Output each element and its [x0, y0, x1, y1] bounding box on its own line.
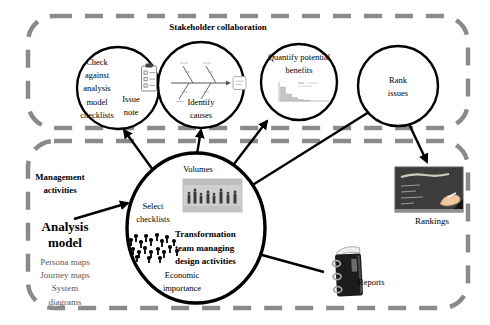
management-panel-title: Management activities	[32, 171, 88, 197]
analysis-model-item: Journey maps	[37, 269, 93, 282]
checklist-clipboard-icon	[142, 64, 157, 92]
reports-label: Reports	[358, 276, 400, 289]
analysis-model-item: System diagrams	[37, 282, 93, 308]
identify-causes-label: Identify causes	[176, 96, 226, 122]
rankings-label: Rankings	[406, 215, 458, 228]
issue-note-label: Issue note	[118, 93, 144, 119]
analysis-model-title: Analysis model	[27, 219, 103, 251]
analysis-model-item: Persona maps	[37, 256, 93, 269]
select-checklists-label: Select checklists	[130, 200, 176, 226]
analysis-model-items: Persona maps Journey maps System diagram…	[37, 256, 93, 309]
meeting-photo	[183, 179, 242, 212]
transformation-team-label: Transformation team managing design acti…	[175, 228, 245, 269]
line-central-to-reports	[262, 255, 324, 272]
rankings-blackboard-icon	[395, 167, 463, 212]
rank-issues-label: Rank issues	[378, 74, 418, 100]
arrow-central-to-identify	[197, 130, 201, 154]
line-central-to-rank	[251, 112, 369, 186]
reports-binder-icon	[332, 246, 364, 297]
process-diagram: Stakeholder collaboration Management act…	[0, 0, 490, 325]
economic-importance-label: Economic importance	[156, 269, 208, 295]
stakeholder-panel-title: Stakeholder collaboration	[138, 21, 298, 34]
arrow-central-to-check	[124, 130, 153, 170]
quantify-benefits-label: Quantify potential benefits	[265, 51, 333, 77]
check-circle-label: Check against analysis model checklists	[74, 56, 120, 122]
arrow-analysis-to-central	[74, 203, 128, 219]
volumes-label: Volumes	[170, 163, 226, 176]
